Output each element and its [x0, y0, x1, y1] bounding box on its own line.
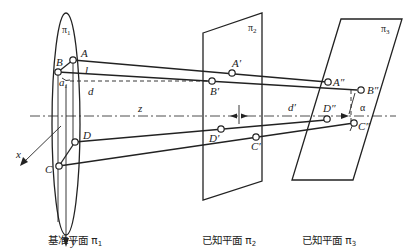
label-b-prime: B′	[210, 85, 220, 97]
plane-pi2	[203, 13, 262, 200]
label-pi2: π2	[248, 22, 257, 35]
d-prime-arrow	[341, 113, 349, 119]
point-d-double-prime	[324, 116, 330, 122]
b2-alpha-line	[349, 93, 355, 114]
label-c: C	[45, 163, 53, 175]
plane-pi3	[292, 19, 402, 180]
point-b-prime	[209, 78, 215, 84]
label-d-double-prime: D″	[322, 102, 336, 114]
x-axis-line	[24, 126, 61, 162]
label-d: D	[82, 129, 91, 141]
ray-c	[59, 123, 354, 166]
point-c-double-prime	[351, 120, 357, 126]
label-d: d	[88, 85, 94, 97]
label-a-prime: A′	[231, 57, 242, 69]
label-d-prime-dim: d′	[288, 101, 297, 113]
point-a-prime	[229, 70, 235, 76]
label-a: A	[80, 47, 88, 59]
label-b: B	[56, 56, 63, 68]
label-pi3: π3	[381, 23, 390, 36]
label-c-double-prime: C″	[358, 120, 370, 132]
segment-cd	[59, 142, 75, 166]
caption-pi2: 已知平面 π2	[202, 234, 256, 248]
caption-pi3: 已知平面 π3	[302, 234, 356, 248]
point-b-double-prime	[358, 87, 364, 93]
x-axis-arrow	[20, 157, 28, 166]
projection-diagram: π1 π2 π3 A B D C A′ B′ D′ C′ A″ B″ D″ C″…	[0, 0, 410, 252]
label-c-prime: C′	[251, 140, 261, 152]
point-b	[55, 69, 61, 75]
label-pi1: π1	[62, 24, 71, 37]
label-d-prime: D′	[208, 132, 220, 144]
point-c	[56, 163, 62, 169]
z-dimension-marks	[230, 105, 248, 124]
label-l: l	[85, 64, 88, 76]
label-a1: a1	[59, 76, 68, 89]
label-b-double-prime: B″	[367, 84, 379, 96]
label-a-double-prime: A″	[332, 76, 345, 88]
ray-d	[75, 120, 326, 142]
label-alpha: α	[360, 102, 366, 113]
ray-a	[73, 60, 327, 82]
label-z: z	[137, 102, 143, 114]
point-a-double-prime	[325, 79, 331, 85]
caption-pi1: 基准平面 π1	[48, 234, 102, 248]
point-d	[72, 139, 78, 145]
point-a	[70, 57, 76, 63]
label-x-axis: x	[15, 148, 21, 160]
